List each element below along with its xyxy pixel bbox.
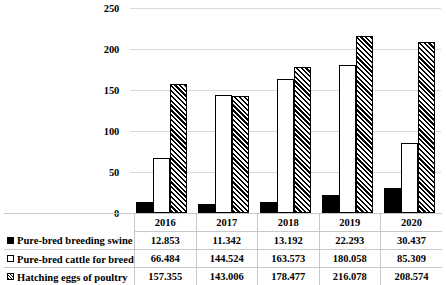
bar — [294, 67, 311, 213]
bar — [339, 65, 356, 213]
table-row: Pure-bred cattle for breeding66.484144.5… — [4, 250, 442, 268]
legend-swatch-icon — [7, 237, 14, 244]
table-column-header: 2019 — [319, 214, 381, 232]
y-axis-tick-label: 150 — [104, 85, 119, 96]
legend-label: Pure-bred cattle for breeding — [17, 254, 135, 265]
legend-swatch-icon — [7, 255, 14, 262]
bar — [384, 188, 401, 213]
bar — [215, 95, 232, 214]
data-table-body: 20162017201820192020Pure-bred breeding s… — [4, 214, 442, 285]
bar-group — [254, 8, 316, 213]
legend-label: Pure-bred breeding swine — [17, 235, 133, 246]
table-cell-value: 163.573 — [258, 250, 320, 268]
table-cell-value: 144.524 — [196, 250, 258, 268]
table-cell-value: 208.574 — [381, 268, 443, 285]
y-axis-tick-label: 200 — [104, 44, 119, 55]
legend-entry: Hatching eggs of poultry — [4, 268, 135, 285]
legend-entry: Pure-bred cattle for breeding — [4, 250, 135, 268]
bar — [153, 158, 170, 213]
table-cell-value: 13.192 — [258, 232, 320, 250]
legend-swatch-icon — [7, 273, 14, 280]
y-axis-tick-label: 100 — [104, 126, 119, 137]
table-cell-value: 22.293 — [319, 232, 381, 250]
bar — [277, 79, 294, 213]
bar — [260, 202, 277, 213]
y-axis-tick-label: 50 — [109, 167, 119, 178]
table-cell-value: 11.342 — [196, 232, 258, 250]
table-cell-value: 157.355 — [135, 268, 197, 285]
table-column-header: 2016 — [135, 214, 197, 232]
plot-area — [130, 8, 441, 213]
table-cell-value: 30.437 — [381, 232, 443, 250]
table-cell-value: 85.309 — [381, 250, 443, 268]
legend-label: Hatching eggs of poultry — [17, 272, 128, 283]
table-column-header: 2020 — [381, 214, 443, 232]
bar — [418, 42, 435, 213]
bar-group — [379, 8, 441, 213]
y-axis-tick-label: 250 — [104, 3, 119, 14]
y-axis: 050100150200250 — [0, 8, 128, 213]
bar — [170, 84, 187, 213]
bar — [356, 36, 373, 213]
table-row: Hatching eggs of poultry157.355143.00617… — [4, 268, 442, 285]
table-column-header: 2018 — [258, 214, 320, 232]
table-row: Pure-bred breeding swine12.85311.34213.1… — [4, 232, 442, 250]
data-table: 20162017201820192020Pure-bred breeding s… — [4, 213, 442, 285]
bar — [232, 96, 249, 213]
bar-group — [317, 8, 379, 213]
bar — [401, 143, 418, 213]
table-column-header: 2017 — [196, 214, 258, 232]
bar-group — [130, 8, 192, 213]
bar — [322, 195, 339, 213]
table-cell-value: 216.078 — [319, 268, 381, 285]
table-cell-value: 66.484 — [135, 250, 197, 268]
bar-chart-with-data-table: 050100150200250 20162017201820192020Pure… — [0, 0, 446, 285]
table-cell-value: 178.477 — [258, 268, 320, 285]
bar — [136, 202, 153, 213]
table-cell-value: 180.058 — [319, 250, 381, 268]
table-cell-value: 143.006 — [196, 268, 258, 285]
table-cell-value: 12.853 — [135, 232, 197, 250]
bar-groups — [130, 8, 441, 213]
bar-group — [192, 8, 254, 213]
table-corner-cell — [4, 214, 135, 232]
legend-entry: Pure-bred breeding swine — [4, 232, 135, 250]
bar — [198, 204, 215, 213]
table-header-row: 20162017201820192020 — [4, 214, 442, 232]
